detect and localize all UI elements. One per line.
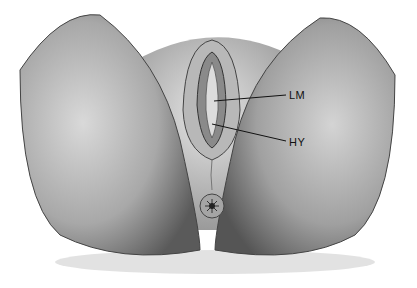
- anatomical-illustration: [0, 0, 417, 288]
- illustration-canvas: LM HY: [0, 0, 417, 288]
- label-lm: LM: [289, 89, 305, 101]
- label-hy: HY: [289, 136, 305, 148]
